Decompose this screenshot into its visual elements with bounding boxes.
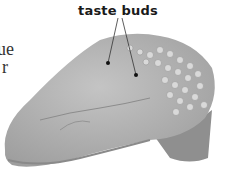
tongue-illustration [0, 0, 225, 182]
taste-bud-marker-2 [134, 73, 138, 77]
taste-bud-marker-1 [106, 61, 110, 65]
